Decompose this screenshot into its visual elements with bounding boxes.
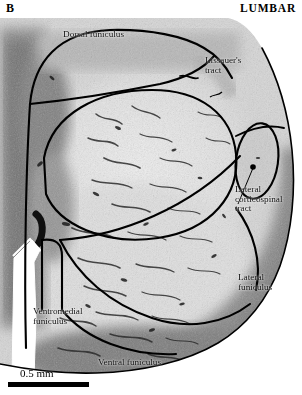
figure-panel: B LUMBAR (0, 0, 302, 395)
figure-header: B LUMBAR (0, 0, 302, 20)
label-lateral-corticospinal-tract: Lateral corticospinal tract (235, 185, 282, 214)
page-title: LUMBAR (240, 2, 296, 14)
scale-bar-line (8, 382, 89, 387)
label-lateral-funiculus: Lateral funiculus (238, 273, 272, 292)
scale-bar-label: 0.5 mm (20, 367, 54, 379)
label-dorsal-funiculus: Dorsal funiculus (63, 30, 124, 40)
label-ventromedial-funiculus: Ventromedial funiculus (33, 307, 83, 326)
label-lissauers-tract: Lissauer's tract (205, 56, 241, 75)
scale-bar: 0.5 mm (8, 367, 128, 393)
panel-letter: B (6, 1, 14, 16)
